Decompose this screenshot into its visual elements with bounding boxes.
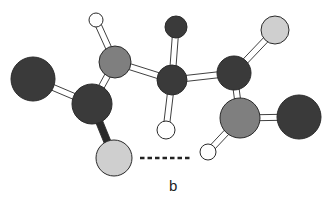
figure-label: b bbox=[169, 177, 177, 194]
atom-dark-large-right bbox=[277, 95, 321, 139]
atom-dark-carbon-left bbox=[72, 84, 112, 124]
atoms-layer bbox=[11, 13, 321, 176]
atom-dark-small-top bbox=[165, 16, 187, 38]
atom-dark-carbon-right bbox=[217, 56, 251, 90]
atom-light-oxygen-left bbox=[96, 140, 132, 176]
atom-gray-nitrogen-right bbox=[220, 98, 260, 138]
atom-dark-carbon-center bbox=[157, 65, 187, 95]
atom-hydrogen-top-left bbox=[89, 13, 103, 27]
atom-hydrogen-bottom-right bbox=[200, 144, 216, 160]
atom-dark-large-left bbox=[11, 57, 55, 101]
atom-hydrogen-center bbox=[157, 121, 175, 139]
atom-light-oxygen-top-right bbox=[261, 16, 289, 44]
atom-gray-nitrogen-left bbox=[99, 46, 131, 78]
molecule-diagram bbox=[0, 0, 333, 206]
